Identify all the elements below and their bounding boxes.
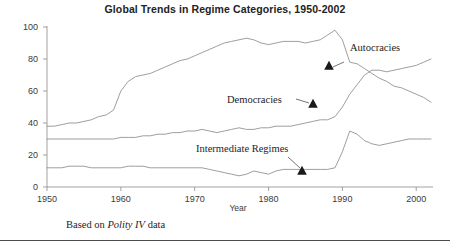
y-tick-label: 60 [28,86,38,96]
annotation-leader-autocracies [333,62,344,67]
x-tick-label: 2000 [406,194,426,204]
y-tick-label: 20 [28,150,38,160]
annotation-pointer-autocracies [324,61,334,70]
x-axis: 195019601970198019902000 [37,187,433,204]
annotation-label-autocracies: Autocracies [350,42,400,53]
x-tick-label: 1960 [111,194,131,204]
annotation-label-intermediate-regimes: Intermediate Regimes [196,143,288,154]
series-annotations: AutocraciesDemocraciesIntermediate Regim… [196,42,400,175]
annotation-leader-intermediate-regimes [288,157,300,168]
annotation-leader-democracies [296,99,309,103]
y-tick-label: 100 [23,22,38,32]
annotation-pointer-democracies [308,99,318,108]
caption-source-name: Polity IV [107,219,145,230]
annotation-label-democracies: Democracies [227,94,282,105]
y-tick-label: 40 [28,118,38,128]
caption-prefix: Based on [66,219,107,230]
caption-suffix: data [145,219,165,230]
x-axis-title: Year [229,203,246,213]
x-tick-label: 1950 [37,194,57,204]
line-chart: 020406080100 195019601970198019902000 Au… [0,0,450,241]
y-axis: 020406080100 [23,22,47,192]
x-tick-label: 1970 [185,194,205,204]
y-tick-label: 80 [28,54,38,64]
figure-container: Global Trends in Regime Categories, 1950… [0,0,450,241]
y-tick-label: 0 [33,182,38,192]
x-tick-label: 1980 [259,194,279,204]
bottom-divider [0,240,450,241]
source-caption: Based on Polity IV data [66,219,165,230]
x-tick-label: 1990 [332,194,352,204]
